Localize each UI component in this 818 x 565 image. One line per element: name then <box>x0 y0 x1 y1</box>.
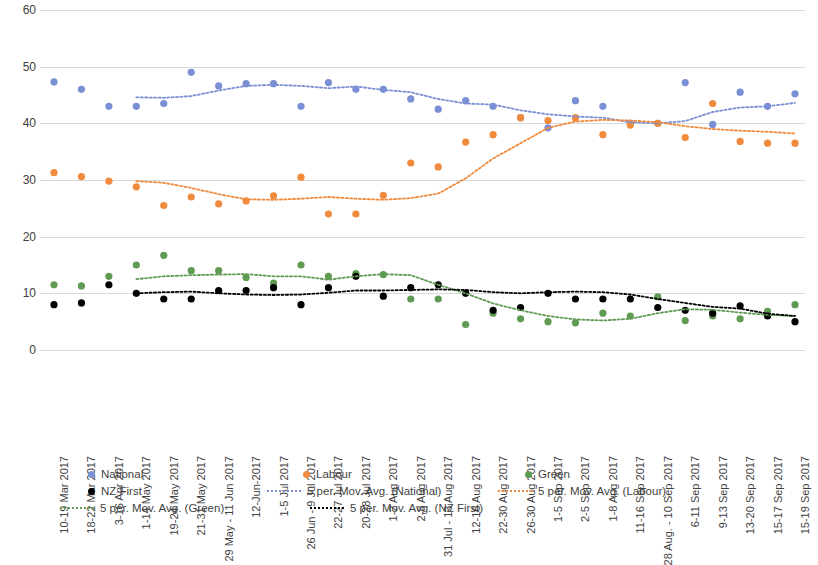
data-point <box>105 273 112 280</box>
data-point <box>599 310 606 317</box>
data-point <box>462 321 469 328</box>
data-point <box>462 138 469 145</box>
data-point <box>270 284 277 291</box>
data-point <box>160 100 167 107</box>
series-national <box>50 69 798 132</box>
data-point <box>105 178 112 185</box>
data-point <box>517 315 524 322</box>
legend-label: 5 per. Mov. Avg. (Labour) <box>538 485 666 497</box>
gridline <box>40 350 805 351</box>
data-point <box>188 69 195 76</box>
data-point <box>627 295 634 302</box>
data-point <box>325 79 332 86</box>
data-point <box>544 318 551 325</box>
data-point <box>791 90 798 97</box>
data-point <box>160 202 167 209</box>
data-point <box>50 78 57 85</box>
data-point <box>325 284 332 291</box>
data-point <box>407 295 414 302</box>
data-point <box>297 301 304 308</box>
data-point <box>764 140 771 147</box>
legend-label: Green <box>538 468 570 480</box>
series-5-per-mov-avg-green- <box>136 274 795 320</box>
legend-row: NationalLabourGreen <box>60 466 800 482</box>
x-axis: 10-19 Mar 201718-22 Mar 20173-16 Apr 201… <box>40 352 805 462</box>
y-axis-tick-label: 10 <box>6 286 36 300</box>
data-point <box>215 82 222 89</box>
legend-label: NZ First <box>101 485 142 497</box>
data-point <box>188 267 195 274</box>
data-point <box>572 295 579 302</box>
plot-area <box>40 10 805 350</box>
y-axis-tick-label: 20 <box>6 230 36 244</box>
data-point <box>78 282 85 289</box>
legend-dot-icon <box>88 471 95 478</box>
data-point <box>517 114 524 121</box>
legend-item-5-per-mov-avg-nz-first-[interactable]: 5 per. Mov. Avg. (NZ First) <box>310 502 483 514</box>
data-point <box>490 131 497 138</box>
data-point <box>544 290 551 297</box>
data-point <box>599 131 606 138</box>
data-point <box>215 200 222 207</box>
legend-item-5-per-mov-avg-national-[interactable]: 5 per. Mov. Avg. (National) <box>267 485 441 497</box>
data-point <box>380 192 387 199</box>
legend-item-green[interactable]: Green <box>525 468 570 480</box>
data-point <box>133 103 140 110</box>
data-point <box>297 103 304 110</box>
y-axis-tick-label: 40 <box>6 116 36 130</box>
data-point <box>78 173 85 180</box>
data-point <box>490 307 497 314</box>
legend-row: NZ First5 per. Mov. Avg. (National)5 per… <box>60 483 800 499</box>
y-axis-tick-label: 60 <box>6 3 36 17</box>
data-point <box>105 103 112 110</box>
data-point <box>105 281 112 288</box>
legend-label: 5 per. Mov. Avg. (NZ First) <box>350 502 483 514</box>
trend-line <box>136 274 795 320</box>
data-point <box>737 89 744 96</box>
data-point <box>435 295 442 302</box>
data-point <box>297 174 304 181</box>
y-axis-tick-label: 50 <box>6 60 36 74</box>
series-5-per-mov-avg-labour- <box>136 120 795 200</box>
data-point <box>572 97 579 104</box>
legend-item-nz-first[interactable]: NZ First <box>88 485 142 497</box>
data-point <box>188 193 195 200</box>
data-point <box>791 301 798 308</box>
legend-item-labour[interactable]: Labour <box>303 468 352 480</box>
y-axis: 0102030405060 <box>0 10 36 350</box>
data-point <box>270 80 277 87</box>
legend-dot-icon <box>303 471 310 478</box>
data-point <box>544 117 551 124</box>
y-axis-tick-label: 0 <box>6 343 36 357</box>
legend-label: Labour <box>316 468 352 480</box>
data-point <box>78 299 85 306</box>
data-point <box>737 315 744 322</box>
legend-label: 5 per. Mov. Avg. (National) <box>307 485 441 497</box>
data-point <box>599 295 606 302</box>
legend-row: 5 per. Mov. Avg. (Green)5 per. Mov. Avg.… <box>60 500 800 516</box>
data-point <box>160 252 167 259</box>
x-axis-tick-label: 15-19 Sep 2017 <box>799 456 811 534</box>
data-point <box>352 210 359 217</box>
data-point <box>791 318 798 325</box>
data-point <box>133 183 140 190</box>
legend-label: National <box>101 468 143 480</box>
legend-line-icon <box>267 490 301 492</box>
data-point <box>325 210 332 217</box>
data-point <box>682 134 689 141</box>
legend-line-icon <box>498 490 532 492</box>
data-point <box>654 304 661 311</box>
legend-label: 5 per. Mov. Avg. (Green) <box>100 502 224 514</box>
legend-item-5-per-mov-avg-labour-[interactable]: 5 per. Mov. Avg. (Labour) <box>498 485 666 497</box>
data-point <box>133 261 140 268</box>
legend-item-national[interactable]: National <box>88 468 143 480</box>
data-point <box>188 295 195 302</box>
legend-item-5-per-mov-avg-green-[interactable]: 5 per. Mov. Avg. (Green) <box>60 502 224 514</box>
data-point <box>243 287 250 294</box>
trend-line <box>136 85 795 124</box>
data-point <box>407 159 414 166</box>
data-point <box>215 267 222 274</box>
data-point <box>435 106 442 113</box>
data-point <box>160 295 167 302</box>
